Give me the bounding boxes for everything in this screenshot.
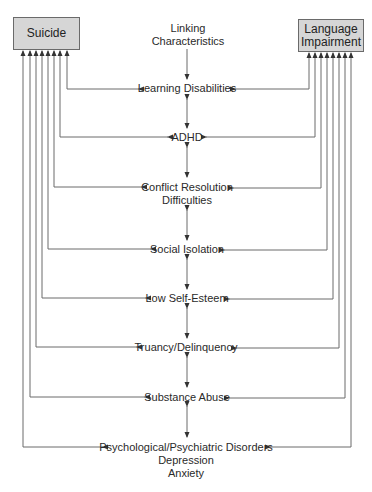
characteristic-label: Social Isolation [150, 243, 224, 256]
diagram-canvas: Suicide Language Impairment Linking Char… [0, 0, 372, 492]
suicide-label: Suicide [27, 27, 66, 40]
characteristic-label: Substance Abuse [144, 391, 230, 404]
characteristic-psychological-disorders: Psychological/Psychiatric Disorders Depr… [99, 441, 273, 480]
linking-characteristics-header: Linking Characteristics [152, 22, 225, 48]
language-impairment-label-line2: Impairment [301, 36, 361, 49]
characteristic-social-isolation: Social Isolation [150, 243, 224, 256]
header-line2: Characteristics [152, 35, 225, 48]
suicide-box: Suicide [13, 17, 80, 50]
characteristic-truancy-delinquency: Truancy/Delinquency [135, 341, 238, 354]
characteristic-label: ADHD [171, 131, 202, 144]
characteristic-adhd: ADHD [171, 131, 202, 144]
characteristic-label-line2: Depression [99, 454, 273, 467]
characteristic-low-self-esteem: Low Self-Esteem [145, 292, 228, 305]
characteristic-label: Psychological/Psychiatric Disorders [99, 441, 273, 454]
characteristic-label: Learning Disabilities [138, 82, 236, 95]
characteristic-conflict-resolution: Conflict Resolution Difficulties [141, 181, 233, 207]
characteristic-label: Conflict Resolution [141, 181, 233, 194]
header-line1: Linking [152, 22, 225, 35]
characteristic-learning-disabilities: Learning Disabilities [138, 82, 236, 95]
language-impairment-label-line1: Language [304, 23, 357, 36]
characteristic-label-line3: Anxiety [99, 467, 273, 480]
characteristic-label: Truancy/Delinquency [135, 341, 238, 354]
characteristic-label: Low Self-Esteem [145, 292, 228, 305]
characteristic-substance-abuse: Substance Abuse [144, 391, 230, 404]
characteristic-label-line2: Difficulties [141, 194, 233, 207]
language-impairment-box: Language Impairment [298, 19, 364, 52]
